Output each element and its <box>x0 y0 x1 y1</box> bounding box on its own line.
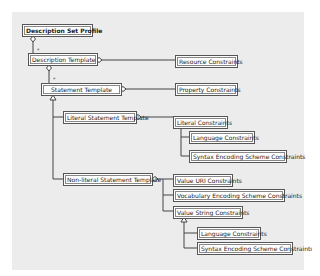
node-property-constraints: Property Constraints <box>175 83 238 96</box>
node-value-language-constraints: Language Constraints <box>197 227 261 240</box>
node-value-syntax-encoding-scheme-constraints: Syntax Encoding Scheme Constraints <box>197 242 293 255</box>
node-value-string-constraints: Value String Constraints <box>173 206 243 219</box>
node-literal-syntax-encoding-scheme-constraints: Syntax Encoding Scheme Constraints <box>189 150 287 163</box>
node-description-set-profile: Description Set Profile <box>22 24 93 37</box>
node-description-template: Description Template <box>28 53 98 66</box>
node-literal-language-constraints: Language Constraints <box>189 131 255 144</box>
multiplicity-label: * <box>53 76 56 82</box>
node-statement-template: Statement Template <box>41 83 122 96</box>
node-literal-constraints: Literal Constraints <box>173 116 228 129</box>
node-literal-statement-template: Literal Statement Template <box>63 111 137 124</box>
node-value-uri-constraints: Value URI Constraints <box>173 174 233 187</box>
node-non-literal-statement-template: Non-literal Statement Template <box>63 173 153 186</box>
node-resource-constraints: Resource Constraints <box>175 55 238 68</box>
node-vocabulary-encoding-scheme-constraints: Vocabulary Encoding Scheme Constraints <box>173 189 285 202</box>
